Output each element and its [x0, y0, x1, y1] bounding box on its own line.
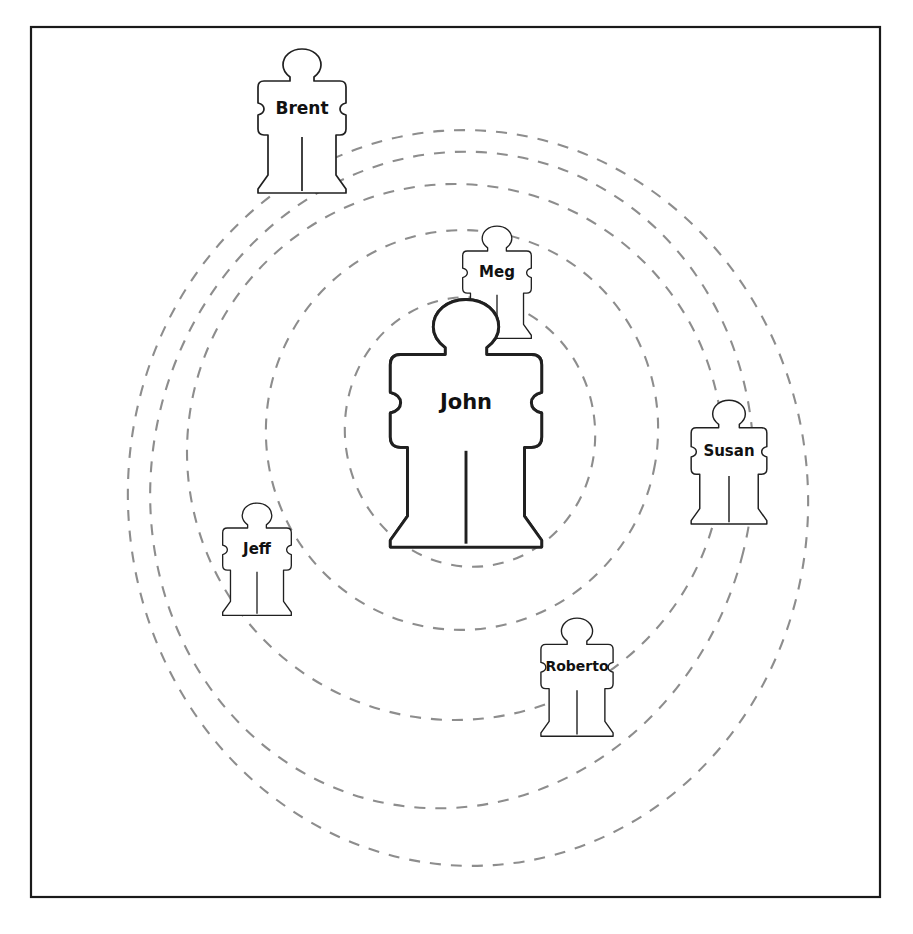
- person-figure-icon: [223, 503, 292, 615]
- person-figure-icon: [541, 618, 613, 736]
- diagram-canvas: BrentMegJohnSusanJeffRoberto: [0, 0, 913, 934]
- person-name-label: John: [438, 390, 492, 414]
- person-brent[interactable]: Brent: [258, 49, 346, 193]
- person-jeff[interactable]: Jeff: [223, 503, 292, 615]
- people-group: BrentMegJohnSusanJeffRoberto: [223, 49, 767, 736]
- person-susan[interactable]: Susan: [691, 400, 767, 524]
- influence-diagram-svg: BrentMegJohnSusanJeffRoberto: [0, 0, 913, 934]
- person-name-label: Susan: [703, 442, 754, 460]
- person-name-label: Roberto: [545, 658, 609, 674]
- person-roberto[interactable]: Roberto: [541, 618, 613, 736]
- person-figure-icon: [258, 49, 346, 193]
- person-figure-icon: [691, 400, 767, 524]
- person-name-label: Jeff: [242, 540, 272, 558]
- person-name-label: Meg: [479, 263, 515, 281]
- person-name-label: Brent: [275, 98, 328, 118]
